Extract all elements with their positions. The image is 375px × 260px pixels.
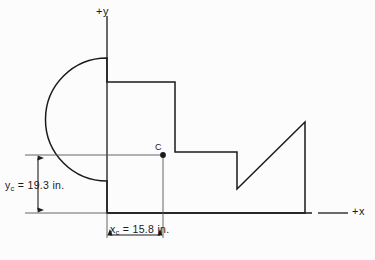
centroid-dot-icon: [160, 152, 166, 158]
xc-equals: =: [123, 223, 129, 235]
yc-subscript: c: [11, 184, 15, 193]
diagram-canvas: +y +x C yc = 19.3 in. xc = 15.8 in.: [0, 0, 375, 260]
xc-dimension-label: xc = 15.8 in.: [110, 224, 169, 236]
composite-area-outline: [45, 58, 305, 213]
yc-value: 19.3: [28, 179, 50, 191]
xc-subscript: c: [116, 228, 120, 237]
centroid-figure: [0, 0, 375, 260]
xc-value: 15.8: [133, 223, 155, 235]
centroid-label: C: [155, 143, 162, 152]
yc-dimension-label: yc = 19.3 in.: [5, 180, 64, 192]
yc-equals: =: [18, 179, 24, 191]
yc-units: in.: [52, 179, 64, 191]
xc-units: in.: [157, 223, 169, 235]
y-axis-label: +y: [96, 6, 109, 17]
x-axis-label: +x: [352, 206, 365, 217]
